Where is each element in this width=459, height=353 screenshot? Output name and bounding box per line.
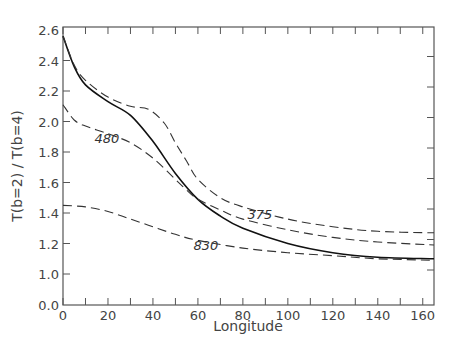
y-tick-label: 1.6 [38,176,59,191]
line-chart: 020406080100120140160 0.01.01.21.41.61.8… [0,0,459,353]
y-tick-label: 0.0 [38,298,59,313]
y-tick-label: 2.4 [38,54,59,69]
y-tick-label: 1.2 [38,237,59,252]
x-tick-label: 140 [365,308,390,323]
curve-label-480: 480 [94,131,119,146]
x-tick-label: 40 [145,308,162,323]
y-tick-label: 2.0 [38,115,59,130]
curve-solid [63,36,434,259]
curves [63,36,434,260]
y-axis-ticks: 0.01.01.21.41.61.82.02.22.42.6 [38,23,434,313]
plot-frame [63,27,434,305]
curve-label-830: 830 [193,238,218,253]
x-axis-ticks: 020406080100120140160 [59,27,435,323]
y-tick-label: 1.4 [38,206,59,221]
y-axis-title: T(b=2) / T(b=4) [9,110,25,223]
x-tick-label: 60 [190,308,207,323]
x-tick-label: 20 [100,308,117,323]
y-tick-label: 2.6 [38,23,59,38]
curve-480 [63,105,434,245]
curve-label-375: 375 [247,207,272,222]
x-tick-label: 0 [59,308,67,323]
plot-border [63,27,434,305]
y-tick-label: 2.2 [38,84,59,99]
y-tick-label: 1.8 [38,145,59,160]
x-axis-title: Longitude [213,318,283,334]
curve-labels: 375480830 [94,131,272,253]
x-tick-label: 120 [320,308,345,323]
y-tick-label: 1.0 [38,267,59,282]
x-tick-label: 160 [410,308,435,323]
